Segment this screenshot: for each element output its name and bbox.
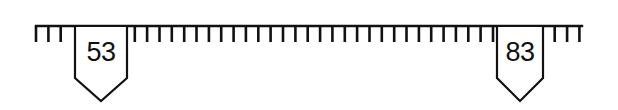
marker-label-left: 53 <box>75 39 127 66</box>
marker-label-right: 83 <box>497 39 543 66</box>
